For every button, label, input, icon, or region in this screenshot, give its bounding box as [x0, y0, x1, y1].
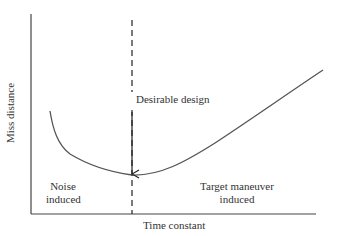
y-axis-label: Miss distance: [4, 83, 17, 143]
desirable-design-label: Desirable design: [136, 93, 210, 106]
miss-distance-curve: [50, 70, 323, 175]
noise-line2: induced: [46, 193, 80, 206]
noise-induced-label: Noise induced: [46, 180, 80, 206]
target-line2: induced: [192, 193, 282, 206]
target-line1: Target maneuver: [192, 180, 282, 193]
x-axis-label: Time constant: [143, 219, 205, 232]
noise-line1: Noise: [46, 180, 80, 193]
target-maneuver-label: Target maneuver induced: [192, 180, 282, 206]
